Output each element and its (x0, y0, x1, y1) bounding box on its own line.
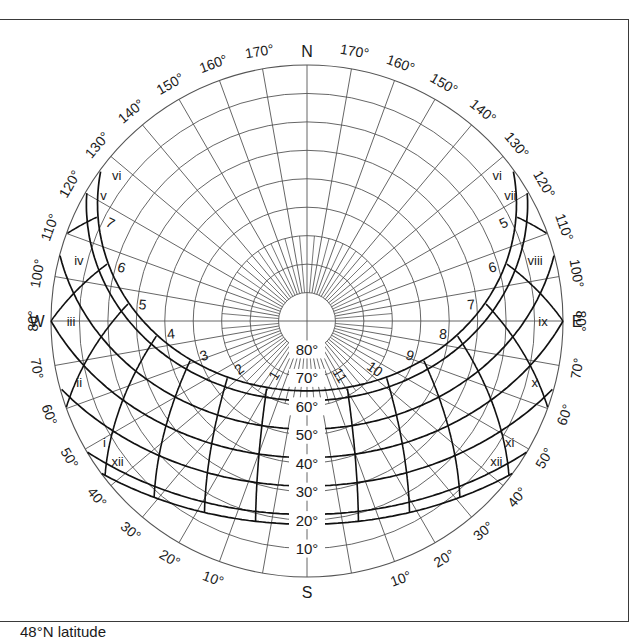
azimuth-fine-spoke (323, 251, 356, 298)
azimuth-fine-spoke (230, 333, 282, 357)
azimuth-spoke-230 (111, 339, 285, 485)
azimuth-spoke-350 (263, 69, 303, 293)
hour-label-1: 1 (265, 368, 283, 383)
altitude-label-70: 70° (296, 369, 319, 386)
month-label-vii: vii (504, 188, 516, 203)
azimuth-label: 170° (244, 41, 275, 62)
azimuth-spoke-70 (334, 233, 548, 311)
sun-path-diagram: 1234567111098765NSWE170°170°160°160°150°… (0, 0, 633, 642)
hour-label-8: 8 (438, 325, 447, 342)
azimuth-label: 60° (38, 402, 60, 427)
altitude-label-20: 20° (296, 512, 319, 529)
month-label-ii: ii (76, 375, 82, 390)
month-label-xii: xii (490, 454, 502, 469)
azimuth-label: 50° (532, 445, 556, 471)
month-label-i: i (103, 435, 106, 450)
azimuth-label: 80° (25, 310, 41, 331)
azimuth-fine-spoke (327, 261, 367, 301)
month-label-viii: viii (528, 253, 543, 268)
hour-label-4: 4 (166, 325, 175, 342)
month-label-v: v (100, 188, 107, 203)
azimuth-label: 10° (388, 567, 413, 589)
azimuth-fine-spoke (237, 272, 284, 305)
azimuth-spoke-280 (55, 277, 279, 317)
azimuth-label: 40° (504, 484, 530, 511)
hour-label-10: 10 (364, 358, 386, 380)
azimuth-spoke-290 (66, 233, 280, 311)
azimuth-label: 70° (567, 357, 586, 381)
azimuth-spoke-60 (332, 193, 529, 307)
azimuth-label: 120° (530, 167, 558, 200)
altitude-label-60: 60° (296, 398, 319, 415)
month-label-vi: vi (112, 168, 122, 183)
azimuth-fine-spoke (247, 261, 287, 301)
month-label-iii: iii (67, 314, 76, 329)
azimuth-fine-spoke (230, 285, 282, 309)
azimuth-label: 100° (27, 258, 48, 289)
north-label: N (301, 43, 313, 60)
azimuth-label: 120° (56, 167, 84, 200)
hour-label-5: 5 (496, 214, 510, 232)
month-label-x: x (531, 375, 538, 390)
azimuth-fine-spoke (333, 333, 385, 357)
hour-label-9: 9 (404, 346, 417, 364)
azimuth-fine-spoke (258, 344, 291, 391)
azimuth-spoke-340 (219, 80, 297, 294)
month-label-ix: ix (538, 314, 548, 329)
altitude-label-40: 40° (296, 455, 319, 472)
hour-label-3: 3 (198, 346, 211, 364)
altitude-label-10: 10° (296, 540, 319, 557)
azimuth-spoke-130 (329, 339, 503, 485)
azimuth-spoke-50 (329, 156, 503, 302)
azimuth-label: 100° (566, 258, 587, 289)
azimuth-spoke-80 (335, 277, 559, 317)
azimuth-label: 30° (470, 518, 497, 544)
azimuth-fine-spoke (258, 251, 291, 298)
azimuth-label: 150° (427, 70, 460, 98)
azimuth-spoke-300 (85, 193, 282, 307)
azimuth-fine-spoke (271, 244, 295, 296)
azimuth-label: 110° (37, 211, 62, 243)
azimuth-label: 140° (467, 96, 499, 127)
azimuth-fine-spoke (333, 285, 385, 309)
azimuth-label: 70° (27, 357, 46, 381)
azimuth-label: 20° (431, 546, 457, 570)
azimuth-label: 130° (82, 129, 113, 161)
azimuth-label: 130° (501, 129, 532, 161)
hour-label-11: 11 (329, 365, 350, 386)
hour-label-7: 7 (103, 214, 117, 232)
azimuth-spoke-40 (325, 125, 471, 299)
month-label-vi: vi (493, 168, 503, 183)
azimuth-fine-spoke (330, 272, 377, 305)
azimuth-label: 20° (157, 546, 183, 570)
azimuth-fine-spoke (319, 244, 343, 296)
azimuth-label: 170° (339, 41, 370, 62)
azimuth-label: 80° (573, 310, 589, 331)
azimuth-label: 50° (57, 445, 81, 471)
azimuth-label: 140° (115, 96, 147, 127)
azimuth-label: 160° (384, 51, 417, 76)
month-label-iv: iv (74, 253, 84, 268)
azimuth-label: 30° (118, 518, 145, 544)
hour-label-2: 2 (231, 360, 247, 378)
azimuth-label: 150° (153, 70, 186, 98)
azimuth-fine-spoke (237, 337, 284, 370)
azimuth-label: 60° (553, 402, 575, 427)
azimuth-spoke-20 (317, 80, 395, 294)
azimuth-spoke-330 (179, 99, 293, 296)
altitude-label-30: 30° (296, 483, 319, 500)
south-label: S (302, 584, 313, 601)
azimuth-spoke-310 (111, 156, 285, 302)
latitude-caption: 48°N latitude (20, 623, 106, 640)
hour-label-5: 5 (138, 296, 148, 313)
azimuth-spoke-320 (142, 125, 288, 299)
azimuth-label: 110° (552, 211, 577, 243)
azimuth-spoke-30 (321, 99, 435, 296)
hour-line-6 (507, 264, 563, 321)
altitude-label-80: 80° (296, 341, 319, 358)
month-label-xi: xi (505, 435, 515, 450)
azimuth-label: 160° (197, 51, 230, 76)
azimuth-spoke-10 (312, 69, 352, 293)
month-label-xii: xii (111, 454, 123, 469)
hour-label-7: 7 (467, 296, 477, 313)
